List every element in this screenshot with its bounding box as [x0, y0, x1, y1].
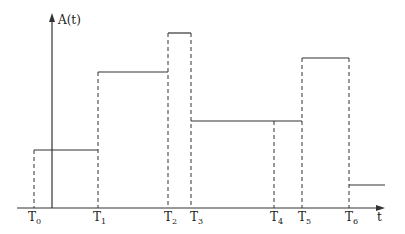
tick-label-t4: T4	[270, 210, 283, 226]
tick-label-t5: T5	[298, 210, 311, 226]
tick-label-t3: T3	[190, 210, 203, 226]
tick-label-t2: T2	[164, 210, 177, 226]
tick-label-t0: T0	[28, 210, 41, 226]
tick-label-t6: T6	[345, 210, 358, 226]
x-axis-label: t	[377, 210, 382, 224]
y-axis-label: A(t)	[57, 13, 81, 27]
axes	[17, 18, 380, 208]
step-levels	[34, 33, 385, 185]
tick-label-t1: T1	[93, 210, 106, 226]
y-axis-arrow-icon	[49, 13, 55, 22]
step-function-diagram: A(t) t T0 T1 T2 T3 T4 T5 T6	[0, 0, 405, 234]
